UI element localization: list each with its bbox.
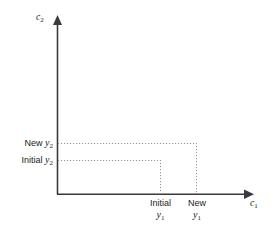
x-tick-word-new: New [173, 198, 221, 209]
plot-canvas [0, 0, 274, 231]
y-tick-label-new-y2: New y2 [25, 138, 53, 148]
y-axis-label: c2 [36, 13, 44, 23]
x-axis-label: c1 [250, 199, 258, 209]
y-tick-var-initial: y2 [45, 154, 53, 165]
x-axis-label-sub: 1 [254, 202, 258, 210]
y-axis-label-sub: 2 [40, 16, 44, 24]
y-tick-label-initial-y2: Initial y2 [22, 155, 53, 165]
y-tick-prefix-initial: Initial [22, 155, 46, 165]
consumption-diagram: c2 c1 New y2 Initial y2 Initial y1 New y… [0, 0, 274, 231]
x-tick-label-new-y1: New y1 [173, 198, 221, 222]
up-arrow-icon [53, 15, 62, 25]
y-tick-var-new: y2 [45, 137, 53, 148]
y-tick-prefix-new: New [25, 138, 46, 148]
x-tick-var-new: y1 [173, 209, 221, 222]
